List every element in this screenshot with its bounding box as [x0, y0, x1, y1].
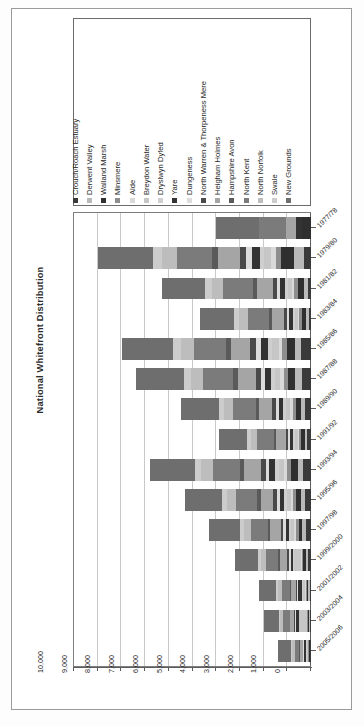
category-axis-tick [311, 559, 316, 560]
legend-label: Dungeness [185, 157, 194, 195]
value-axis-tick [192, 667, 193, 671]
bar-segment [303, 459, 311, 481]
legend-item: Dungeness [183, 53, 196, 203]
category-axis-label: 1995/96 [316, 478, 339, 501]
bar-segment [264, 610, 279, 632]
value-axis-tick [168, 667, 169, 671]
gridline [73, 213, 74, 666]
bar-segment [251, 519, 268, 541]
bar-segment [213, 459, 240, 481]
legend-item: New Grounds [282, 53, 295, 203]
category-axis-label: 1989/90 [316, 387, 339, 410]
bar-row [98, 247, 311, 269]
bar-segment [209, 519, 239, 541]
bar-row [200, 308, 311, 330]
category-axis-label: 1985/86 [316, 327, 339, 350]
bar-segment [304, 247, 311, 269]
bar-segment [162, 278, 206, 300]
gridline [144, 213, 145, 666]
category-axis-label: 2003/2004 [316, 593, 344, 621]
bar-row [216, 217, 311, 239]
bar-row [264, 610, 311, 632]
bar-segment [302, 217, 311, 239]
legend-label: Minsmere [113, 162, 122, 195]
bar-row [235, 549, 311, 571]
bar-segment [282, 580, 291, 602]
legend-swatch-icon [172, 198, 177, 203]
bar-segment [287, 338, 295, 360]
legend-swatch-icon [115, 198, 120, 203]
bar-segment [219, 429, 247, 451]
legend-items: Crouch/Roach EstuaryDerwent ValleyWallan… [74, 19, 312, 207]
value-axis-label: 6,000 [131, 631, 140, 673]
value-axis-label: 8,000 [83, 631, 92, 673]
figure-sheet: National Whitefront Distribution Crouch/… [11, 8, 352, 710]
bar-row [136, 368, 311, 390]
legend-swatch-icon [272, 198, 277, 203]
category-axis-tick [311, 378, 316, 379]
bar-segment [201, 459, 212, 481]
legend-swatch-icon [73, 198, 78, 203]
legend-label: Swale [270, 174, 279, 195]
value-axis-label: 1,000 [249, 631, 258, 673]
legend-item: Swale [268, 53, 281, 203]
legend-label: Derwent Valley [85, 144, 94, 195]
bar-segment [177, 247, 213, 269]
bar-segment [288, 368, 295, 390]
legend-item: Dryslwyn Dyfed [154, 53, 167, 203]
bar-segment [184, 368, 191, 390]
category-axis-tick [311, 348, 316, 349]
bar-segment [136, 368, 184, 390]
legend-swatch-icon [258, 198, 263, 203]
value-axis-tick [310, 667, 311, 671]
legend-label: Alde [128, 180, 137, 195]
category-axis-tick [311, 318, 316, 319]
category-axis: 1977/781979/801981/821983/841985/861987/… [311, 212, 364, 667]
legend-swatch-icon [286, 198, 291, 203]
bar-segment [238, 368, 256, 390]
legend-swatch-icon [187, 198, 192, 203]
legend-item: Derwent Valley [83, 53, 96, 203]
value-axis-tick [120, 667, 121, 671]
bar-segment [261, 338, 268, 360]
legend-label: North Kent [242, 159, 251, 195]
screenshot-page: National Whitefront Distribution Crouch/… [0, 0, 364, 726]
bar-segment [216, 217, 258, 239]
legend-item: North Norfolk [254, 53, 267, 203]
bar-segment [227, 489, 236, 511]
bar-row [181, 398, 311, 420]
bar-segment [239, 308, 248, 330]
category-axis-tick [311, 227, 316, 228]
value-axis-tick [239, 667, 240, 671]
legend-item: North Kent [240, 53, 253, 203]
bar-segment [181, 398, 219, 420]
category-axis-label: 1993/94 [316, 448, 339, 471]
bar-segment [150, 459, 195, 481]
value-axis-tick [73, 667, 74, 671]
value-axis-label: 0 [273, 631, 282, 673]
legend-item: Hampshire Avon [225, 53, 238, 203]
legend-swatch-icon [215, 198, 220, 203]
category-axis-label: 2005/2006 [316, 624, 344, 652]
bar-segment [191, 368, 203, 390]
value-axis-tick [97, 667, 98, 671]
value-axis-label: 2,000 [226, 631, 235, 673]
bar-row [122, 338, 312, 360]
bar-segment [203, 368, 233, 390]
bar-row [185, 489, 311, 511]
value-axis-label: 10,000 [36, 631, 45, 673]
legend-swatch-icon [158, 198, 163, 203]
bar-segment [194, 338, 226, 360]
value-axis-label: 4,000 [178, 631, 187, 673]
bar-segment [244, 459, 261, 481]
value-axis-tick [215, 667, 216, 671]
bar-segment [261, 489, 274, 511]
bar-segment [218, 247, 239, 269]
bar-segment [302, 368, 311, 390]
category-axis-label: 1987/88 [316, 357, 339, 380]
bar-segment [301, 338, 311, 360]
bar-segment [257, 278, 274, 300]
bar-segment [153, 247, 162, 269]
bar-segment [98, 247, 153, 269]
category-axis-tick [311, 620, 316, 621]
